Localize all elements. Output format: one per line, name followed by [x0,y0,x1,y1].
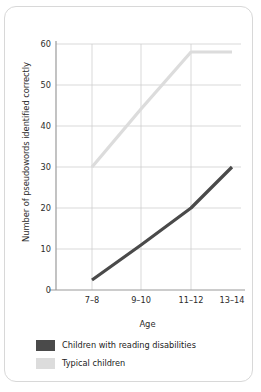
series-line-typical-children [92,52,232,167]
svg-text:40: 40 [41,121,51,131]
svg-text:20: 20 [41,203,51,213]
chart-legend: Children with reading disabilities Typic… [36,339,246,375]
series-line-reading-disabilities [92,167,232,280]
x-tick-labels: 7–8 9–10 11–12 13–14 [85,295,245,305]
svg-text:50: 50 [41,80,51,90]
chart-area: Number of pseudowords identified correct… [5,7,254,383]
svg-text:0: 0 [46,285,51,295]
legend-item-reading-disabilities: Children with reading disabilities [36,339,246,352]
legend-label-reading-disabilities: Children with reading disabilities [62,340,196,351]
svg-text:9–10: 9–10 [131,295,151,305]
x-axis-title-text: Age [103,319,155,329]
y-tick-labels: 60 50 40 30 20 10 0 [41,39,51,295]
horizontal-gridlines [56,44,241,249]
legend-item-typical-children: Typical children [36,357,246,370]
svg-text:11–12: 11–12 [179,295,204,305]
legend-label-typical-children: Typical children [62,358,125,369]
chart-card: Number of pseudowords identified correct… [4,6,253,382]
svg-text:10: 10 [41,244,51,254]
legend-swatch-reading-disabilities [36,340,55,351]
svg-text:60: 60 [41,39,51,49]
svg-text:30: 30 [41,162,51,172]
svg-text:13–14: 13–14 [220,295,245,305]
legend-swatch-typical-children [36,358,55,369]
x-axis-title: Age [5,319,254,329]
svg-text:7–8: 7–8 [85,295,100,305]
